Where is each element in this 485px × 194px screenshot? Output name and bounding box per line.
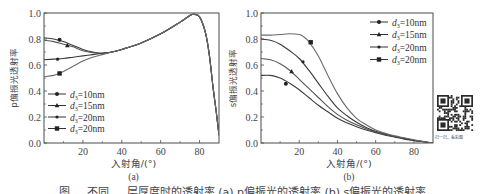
x-tick-label: 80 bbox=[195, 146, 205, 157]
panel-label: (b) bbox=[343, 172, 354, 183]
x-tick-label: 60 bbox=[156, 146, 166, 157]
panel-a-p-polarization-chart: 0.00.20.40.60.81.020406080入射角/(°)(a)p偏振光… bbox=[9, 8, 219, 184]
y-axis-label: s偏振光透射率 bbox=[228, 49, 238, 107]
legend: d3=10nmd3=15nmd3=20nmd3=20nm bbox=[48, 90, 105, 136]
figure: 0.00.20.40.60.81.020406080入射角/(°)(a)p偏振光… bbox=[0, 0, 485, 194]
legend-label: d3=20nm bbox=[392, 43, 427, 54]
legend-marker bbox=[55, 92, 59, 96]
y-tick-label: 0.6 bbox=[29, 60, 42, 71]
y-tick-label: 0.0 bbox=[29, 138, 42, 149]
y-tick-label: 0.8 bbox=[246, 34, 259, 45]
x-tick-label: 20 bbox=[294, 146, 304, 157]
x-tick-label: 40 bbox=[332, 146, 342, 157]
x-tick-label: 60 bbox=[371, 146, 381, 157]
y-tick-label: 0.8 bbox=[29, 34, 42, 45]
series-marker bbox=[58, 38, 62, 42]
legend-label: d3=20nm bbox=[70, 113, 105, 124]
y-tick-label: 1.0 bbox=[29, 8, 42, 19]
legend-marker bbox=[377, 20, 381, 24]
legend-label: d3=15nm bbox=[70, 101, 105, 112]
y-tick-label: 0.2 bbox=[29, 112, 42, 123]
series-marker bbox=[289, 69, 294, 73]
series-line bbox=[261, 59, 433, 144]
y-tick-label: 0.4 bbox=[246, 86, 259, 97]
qr-code-icon bbox=[437, 95, 474, 131]
panel-b-s-polarization-chart: 0.00.20.40.60.81.020406080入射角/(°)(b)s偏振光… bbox=[228, 8, 433, 184]
series-marker bbox=[57, 71, 61, 75]
qr-caption: 扫一扫，看彩图 bbox=[435, 134, 480, 140]
panel-label: (a) bbox=[128, 172, 139, 183]
legend-label: d3=15nm bbox=[392, 30, 427, 41]
legend-marker bbox=[377, 57, 381, 61]
series-marker bbox=[308, 40, 312, 44]
legend-marker bbox=[55, 115, 58, 118]
x-axis-label: 入射角/(°) bbox=[111, 158, 156, 169]
y-tick-label: 0.0 bbox=[246, 138, 259, 149]
series-marker bbox=[301, 60, 304, 63]
series-marker bbox=[284, 82, 288, 86]
x-tick-label: 20 bbox=[78, 146, 88, 157]
legend-label: d3=10nm bbox=[392, 18, 427, 29]
legend-label: d3=20nm bbox=[392, 55, 427, 66]
x-tick-label: 80 bbox=[409, 146, 419, 157]
x-tick-label: 40 bbox=[117, 146, 127, 157]
y-axis-label: p偏振光透射率 bbox=[9, 48, 19, 107]
y-tick-label: 0.6 bbox=[246, 60, 259, 71]
qr-code bbox=[437, 95, 474, 131]
legend-marker bbox=[377, 45, 380, 48]
legend-label: d3=20nm bbox=[70, 124, 105, 135]
y-tick-label: 1.0 bbox=[246, 8, 259, 19]
figure-caption: 图 ... 不同 ... 层厚度时的透射率 (a) p偏振光的透射率 (b) s… bbox=[0, 186, 485, 194]
legend-marker bbox=[55, 126, 59, 130]
y-tick-label: 0.2 bbox=[246, 112, 259, 123]
y-tick-label: 0.4 bbox=[29, 86, 42, 97]
series-marker bbox=[56, 58, 59, 61]
legend-label: d3=10nm bbox=[70, 90, 105, 101]
x-axis-label: 入射角/(°) bbox=[326, 158, 371, 169]
legend: d3=10nmd3=15nmd3=20nmd3=20nm bbox=[370, 18, 427, 67]
